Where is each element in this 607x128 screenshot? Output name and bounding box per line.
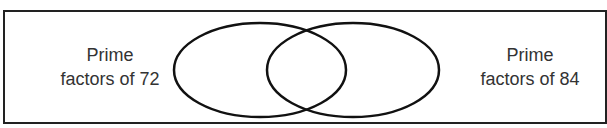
set-84-label-line2: factors of 84 (455, 67, 605, 91)
set-84-ellipse (267, 23, 439, 117)
set-84-label-line1: Prime (455, 43, 605, 67)
set-84-label: Prime factors of 84 (455, 43, 605, 91)
set-72-label: Prime factors of 72 (35, 43, 185, 91)
set-72-label-line2: factors of 72 (35, 67, 185, 91)
set-72-ellipse (174, 23, 346, 117)
set-72-label-line1: Prime (35, 43, 185, 67)
